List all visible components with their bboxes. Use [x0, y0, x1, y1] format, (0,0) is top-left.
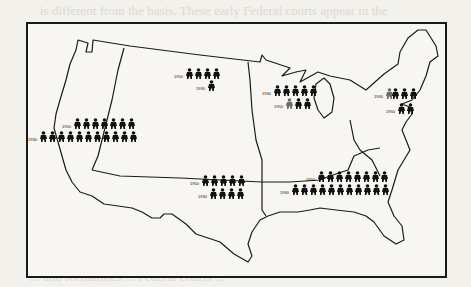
- pictograph-row-southwest-1950: 1950: [190, 175, 246, 186]
- pictograph-row-pacific-1950: 1950: [62, 118, 136, 129]
- year-label: 1950: [62, 124, 71, 129]
- person-figures-icon: [285, 98, 317, 109]
- pictograph-row-mountain-1950: 1950: [174, 68, 221, 79]
- year-label: 1950: [386, 109, 395, 114]
- person-figures-icon: [273, 85, 318, 96]
- pictograph-row-midwest-1950: 1950: [274, 98, 317, 109]
- person-figures-icon: [207, 80, 216, 91]
- us-outline: [54, 30, 438, 262]
- year-label: 1930: [28, 137, 37, 142]
- person-figures-icon: [201, 175, 246, 186]
- year-label: 1930: [198, 194, 207, 199]
- year-label: 1930: [374, 94, 383, 99]
- year-label: 1950: [274, 104, 283, 109]
- pictograph-row-south-1930: 1930: [280, 184, 390, 195]
- person-figures-icon: [317, 171, 389, 182]
- person-figures-icon: [291, 184, 390, 195]
- pictograph-row-southwest-1930: 1930: [198, 188, 245, 199]
- border-pacific-mountain: [92, 48, 124, 170]
- pictograph-row-mountain-1930: 1930: [196, 80, 216, 91]
- border-midwest-northeast: [350, 120, 360, 150]
- year-label: 1930: [262, 91, 271, 96]
- year-label: 1950: [174, 74, 183, 79]
- pictograph-row-south-1950: 1950: [306, 171, 389, 182]
- year-label: 1930: [196, 86, 205, 91]
- person-figures-icon: [397, 103, 415, 114]
- year-label: 1930: [280, 190, 289, 195]
- year-label: 1950: [306, 177, 315, 182]
- person-figures-icon: [39, 131, 138, 142]
- border-southwest-south: [262, 182, 266, 216]
- person-figures-icon: [385, 88, 417, 99]
- pictograph-row-pacific-1930: 1930: [28, 131, 138, 142]
- person-figures-icon: [209, 188, 245, 199]
- year-label: 1950: [190, 181, 199, 186]
- pictograph-row-midwest-1930: 1930: [262, 85, 318, 96]
- michigan: [314, 78, 334, 118]
- person-figures-icon: [185, 68, 221, 79]
- person-figures-icon: [73, 118, 136, 129]
- us-outline-map: [0, 0, 471, 287]
- pictograph-row-northeast-1930: 1930: [374, 88, 417, 99]
- border-mountain-midwest: [248, 62, 262, 182]
- pictograph-row-northeast-1950: 1950: [386, 103, 415, 114]
